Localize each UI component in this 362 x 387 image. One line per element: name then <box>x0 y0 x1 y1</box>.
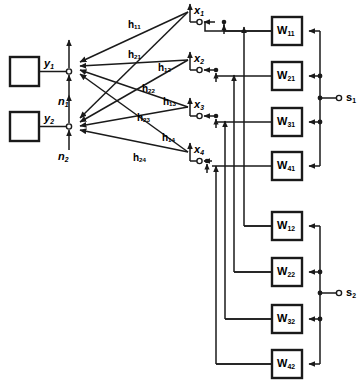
s2-terminal <box>336 290 341 295</box>
signal-label-y2: y2 <box>44 113 54 125</box>
rx-label-x3: x3 <box>194 99 204 111</box>
rx-label-x2: x2 <box>194 53 204 65</box>
s2-junction-W32 <box>318 317 323 322</box>
rx-label-x1: x1 <box>194 5 204 17</box>
s2-junction-W22 <box>318 270 323 275</box>
junction-D-x4 <box>205 159 210 164</box>
diagram-svg <box>0 0 362 387</box>
s1-junction-W21 <box>318 74 323 79</box>
channel-label-h21: h21 <box>128 50 141 61</box>
weight-label-W11: W11 <box>277 25 295 37</box>
output-label-s1: s1 <box>346 92 356 104</box>
channel-label-h11: h11 <box>128 20 141 31</box>
channel-label-h13: h13 <box>163 97 176 108</box>
diagram-canvas: y1 n1 y2 n2 h11 h21 h12 h22 h13 h23 h14 … <box>0 0 362 387</box>
weight-label-W41: W41 <box>277 160 295 172</box>
junction-A-x1 <box>222 20 227 25</box>
output-label-s2: s2 <box>346 287 356 299</box>
junction-C-x3 <box>214 114 219 119</box>
source-box-1 <box>10 57 39 86</box>
source-box-2 <box>10 112 39 141</box>
channel-label-h14: h14 <box>162 133 175 144</box>
s1-junction-W31 <box>318 120 323 125</box>
channel-label-h24: h24 <box>133 153 146 164</box>
junction-B-x2 <box>214 68 219 73</box>
summing-node-2 <box>66 124 71 129</box>
weight-label-W21: W21 <box>277 70 295 82</box>
s1-junction-tap <box>318 96 323 101</box>
summing-node-1 <box>66 69 71 74</box>
rx-node-3 <box>197 113 202 118</box>
rx-node-1 <box>197 19 202 24</box>
channel-label-h22: h22 <box>142 84 155 95</box>
rx-node-2 <box>197 67 202 72</box>
signal-label-y1: y1 <box>44 58 54 70</box>
weight-label-W22: W22 <box>277 266 295 278</box>
return-W11-x1 <box>205 22 272 31</box>
s2-junction-tap <box>318 291 323 296</box>
channel-label-h12: h12 <box>158 63 171 74</box>
channel-h23 <box>80 107 188 126</box>
weight-label-W42: W42 <box>277 358 295 370</box>
s1-terminal <box>336 95 341 100</box>
weight-label-W31: W31 <box>277 116 295 128</box>
rx-node-4 <box>197 158 202 163</box>
noise-label-n1: n1 <box>58 96 69 108</box>
weight-label-W12: W12 <box>277 220 295 232</box>
weight-label-W32: W32 <box>277 313 295 325</box>
channel-label-h23: h23 <box>137 113 150 124</box>
noise-label-n2: n2 <box>58 151 69 163</box>
rx-label-x4: x4 <box>194 144 204 156</box>
